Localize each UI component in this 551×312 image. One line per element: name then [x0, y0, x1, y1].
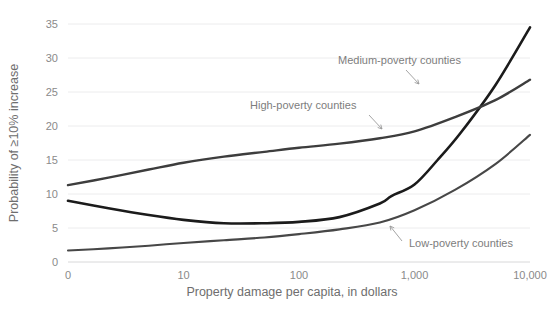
y-axis-tick-labels: 05101520253035 — [46, 18, 58, 268]
x-axis-title: Property damage per capita, in dollars — [186, 285, 397, 299]
x-axis-tick-label: 100 — [290, 269, 308, 281]
y-axis-tick-label: 5 — [52, 222, 58, 234]
line-chart: 05101520253035 0101001,00010,000 Medium-… — [0, 0, 551, 312]
x-axis-tick-labels: 0101001,00010,000 — [65, 269, 547, 281]
y-axis-title: Probability of ≥10% increase — [7, 64, 21, 222]
annotation-label-low-poverty: Low-poverty counties — [409, 237, 513, 249]
annotation-label-medium-poverty: Medium-poverty counties — [338, 54, 461, 66]
x-axis-tick-label: 1,000 — [401, 269, 429, 281]
y-axis-tick-label: 10 — [46, 188, 58, 200]
y-axis-tick-label: 30 — [46, 52, 58, 64]
y-axis-tick-label: 25 — [46, 86, 58, 98]
annotation-leader-high — [369, 115, 382, 129]
chart-title-cropped — [0, 0, 551, 5]
y-axis-tick-label: 0 — [52, 256, 58, 268]
series-annotations-group: Medium-poverty countiesHigh-poverty coun… — [250, 54, 513, 249]
x-axis-tick-label: 10,000 — [513, 269, 547, 281]
x-axis-tick-label: 0 — [65, 269, 71, 281]
y-axis-tick-label: 35 — [46, 18, 58, 30]
y-axis-tick-label: 20 — [46, 120, 58, 132]
series-line-low-poverty-counties — [68, 135, 530, 251]
x-axis-tick-label: 10 — [177, 269, 189, 281]
annotation-label-high-poverty: High-poverty counties — [250, 99, 357, 111]
annotation-leader-medium — [406, 70, 419, 84]
chart-container: 05101520253035 0101001,00010,000 Medium-… — [0, 0, 551, 312]
y-axis-tick-label: 15 — [46, 154, 58, 166]
